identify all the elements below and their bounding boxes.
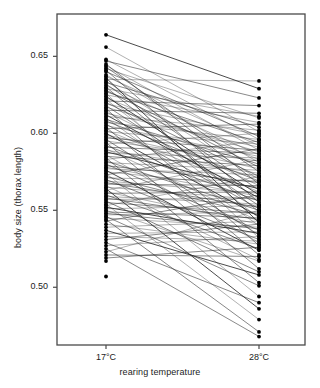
data-point-17c — [104, 259, 108, 263]
data-point-28c — [257, 104, 261, 108]
data-point-28c — [257, 164, 261, 168]
data-point-28c — [257, 318, 261, 322]
y-tick-label-0-50: 0.50 — [0, 281, 48, 291]
data-point-28c — [257, 122, 261, 126]
y-tick-label-0-55: 0.55 — [0, 204, 48, 214]
reaction-norm-figure: 0.65 0.60 0.55 0.50 17°C 28°C body size … — [0, 0, 320, 388]
data-point-28c — [257, 204, 261, 208]
data-point-28c — [257, 239, 261, 243]
x-tick-label-28c: 28°C — [249, 352, 269, 362]
y-tick-label-0-65: 0.65 — [0, 50, 48, 60]
data-point-28c — [257, 111, 261, 115]
y-axis-title: body size (thorax length) — [13, 147, 23, 248]
x-tick-label-17c: 17°C — [96, 352, 116, 362]
data-point-28c — [257, 208, 261, 212]
data-point-28c — [257, 139, 261, 143]
data-point-17c — [104, 45, 108, 49]
data-point-28c — [257, 147, 261, 151]
data-point-28c — [257, 168, 261, 172]
plot-background — [0, 0, 320, 388]
data-point-28c — [257, 273, 261, 277]
data-point-28c — [257, 179, 261, 183]
data-point-28c — [257, 184, 261, 188]
data-point-28c — [257, 79, 261, 83]
data-point-28c — [257, 245, 261, 249]
data-point-28c — [257, 330, 261, 334]
data-point-28c — [257, 158, 261, 162]
data-point-28c — [257, 335, 261, 339]
x-axis-title: rearing temperature — [0, 367, 320, 377]
data-point-28c — [257, 230, 261, 234]
data-point-28c — [257, 151, 261, 155]
data-point-28c — [257, 193, 261, 197]
data-point-28c — [257, 87, 261, 91]
data-point-28c — [257, 255, 261, 259]
y-tick-label-0-60: 0.60 — [0, 127, 48, 137]
data-point-28c — [257, 175, 261, 179]
data-point-28c — [257, 295, 261, 299]
data-point-28c — [257, 131, 261, 135]
data-point-28c — [257, 307, 261, 311]
data-point-28c — [257, 235, 261, 239]
data-point-28c — [257, 284, 261, 288]
data-point-28c — [257, 301, 261, 305]
plot-canvas — [0, 0, 320, 388]
data-point-17c — [104, 275, 108, 279]
data-point-28c — [257, 222, 261, 226]
data-point-28c — [257, 96, 261, 100]
data-point-17c — [104, 33, 108, 37]
data-point-28c — [257, 259, 261, 263]
